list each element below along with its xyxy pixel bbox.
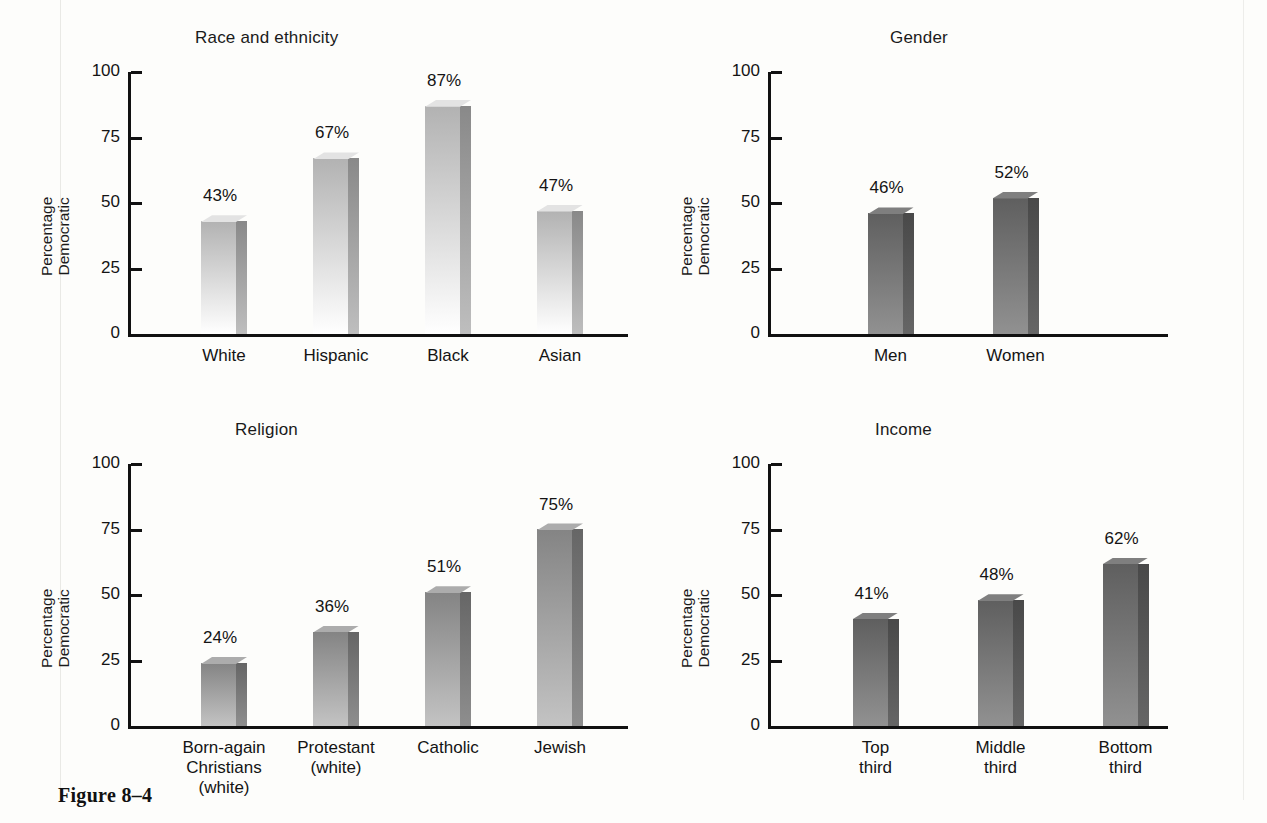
bar-side-face <box>1028 198 1039 334</box>
x-axis-category-label: Protestant (white) <box>276 738 396 778</box>
bar-value-label: 43% <box>185 186 255 206</box>
y-axis-label-line-1: Percentage <box>38 197 55 276</box>
bar <box>868 207 914 334</box>
panel-title: Income <box>875 420 932 440</box>
y-axis-tick-label: 75 <box>710 127 760 147</box>
x-axis-line <box>768 334 1168 337</box>
y-axis-tick <box>131 202 142 205</box>
y-axis-tick-label: 75 <box>70 127 120 147</box>
x-axis-category-label: Born-again Christians (white) <box>164 738 284 798</box>
plot-area: 025507510041%Top third48%Middle third62%… <box>768 464 1168 726</box>
y-axis-tick-label: 100 <box>710 453 760 473</box>
x-axis-category-label: Asian <box>500 346 620 366</box>
panel-title: Religion <box>235 420 298 440</box>
bar <box>201 657 247 726</box>
y-axis-tick-label: 0 <box>710 715 760 735</box>
y-axis-tick-label: 100 <box>710 61 760 81</box>
y-axis-label: PercentageDemocratic <box>678 197 712 276</box>
y-axis-tick <box>771 463 782 466</box>
x-axis-line <box>128 334 628 337</box>
bar-side-face <box>348 632 359 726</box>
bar-value-label: 48% <box>962 565 1032 585</box>
y-axis-tick-label: 25 <box>70 650 120 670</box>
bar-value-label: 41% <box>837 584 907 604</box>
y-axis-tick <box>131 137 142 140</box>
y-axis-tick-label: 75 <box>710 519 760 539</box>
plot-area: 025507510043%White67%Hispanic87%Black47%… <box>128 72 628 334</box>
x-axis-category-label: Catholic <box>388 738 508 758</box>
bar <box>313 626 359 726</box>
y-axis-tick-label: 50 <box>70 192 120 212</box>
bar <box>978 594 1024 726</box>
bar-side-face <box>572 211 583 334</box>
y-axis-tick-label: 0 <box>710 323 760 343</box>
y-axis-tick <box>771 268 782 271</box>
panel-title: Race and ethnicity <box>195 28 338 48</box>
x-axis-category-label: Top third <box>809 738 942 778</box>
y-axis-tick-label: 75 <box>70 519 120 539</box>
bar <box>313 152 359 334</box>
y-axis-tick-label: 25 <box>70 258 120 278</box>
y-axis-tick <box>131 660 142 663</box>
y-axis-tick-label: 25 <box>710 258 760 278</box>
bar <box>853 613 899 726</box>
y-axis-label-line-1: Percentage <box>678 197 695 276</box>
bar-side-face <box>236 221 247 334</box>
y-axis-tick <box>771 594 782 597</box>
bar-value-label: 67% <box>297 123 367 143</box>
figure-caption: Figure 8–4 <box>58 784 152 807</box>
y-axis-tick <box>131 268 142 271</box>
y-axis-label: PercentageDemocratic <box>38 589 72 668</box>
x-axis-line <box>128 726 628 729</box>
bar-value-label: 52% <box>977 163 1047 183</box>
bar-value-label: 75% <box>521 495 591 515</box>
bar-side-face <box>888 619 899 726</box>
bar-side-face <box>1013 600 1024 726</box>
bar <box>425 586 471 726</box>
x-axis-line <box>768 726 1168 729</box>
x-axis-category-label: Black <box>388 346 508 366</box>
plot-area: 025507510046%Men52%Women <box>768 72 1168 334</box>
y-axis-tick <box>771 529 782 532</box>
y-axis-tick <box>771 660 782 663</box>
x-axis-category-label: White <box>164 346 284 366</box>
y-axis-tick <box>771 71 782 74</box>
y-axis-tick-label: 50 <box>710 192 760 212</box>
bar <box>537 523 583 726</box>
y-axis-tick-label: 50 <box>70 584 120 604</box>
bar-value-label: 51% <box>409 557 479 577</box>
bar-side-face <box>236 663 247 726</box>
bar <box>537 205 583 334</box>
y-axis-tick <box>131 463 142 466</box>
bar-side-face <box>460 106 471 334</box>
bar-side-face <box>1138 564 1149 726</box>
bar-value-label: 47% <box>521 176 591 196</box>
bar <box>425 100 471 334</box>
bar <box>993 192 1039 334</box>
figure-panel-grid: Race and ethnicityPercentageDemocratic02… <box>0 0 1267 790</box>
x-axis-category-label: Jewish <box>500 738 620 758</box>
bar <box>201 215 247 334</box>
bar-side-face <box>348 158 359 334</box>
plot-area: 025507510024%Born-again Christians (whit… <box>128 464 628 726</box>
bar-value-label: 36% <box>297 597 367 617</box>
y-axis-label-line-1: Percentage <box>678 589 695 668</box>
x-axis-category-label: Middle third <box>934 738 1067 778</box>
bar-value-label: 62% <box>1087 529 1157 549</box>
y-axis-label-line-1: Percentage <box>38 589 55 668</box>
y-axis-tick-label: 25 <box>710 650 760 670</box>
bar-side-face <box>460 592 471 726</box>
bar-side-face <box>903 213 914 334</box>
x-axis-category-label: Bottom third <box>1059 738 1192 778</box>
bar-value-label: 87% <box>409 71 479 91</box>
bar-value-label: 24% <box>185 628 255 648</box>
y-axis-tick <box>131 71 142 74</box>
bar-side-face <box>572 529 583 726</box>
y-axis-tick-label: 50 <box>710 584 760 604</box>
x-axis-category-label: Men <box>824 346 957 366</box>
x-axis-category-label: Hispanic <box>276 346 396 366</box>
y-axis-tick <box>771 137 782 140</box>
x-axis-category-label: Women <box>949 346 1082 366</box>
bar <box>1103 558 1149 726</box>
y-axis-label: PercentageDemocratic <box>678 589 712 668</box>
